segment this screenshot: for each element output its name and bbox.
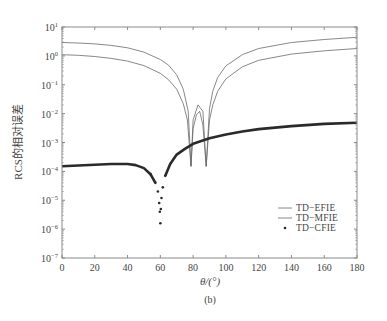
rcs-error-chart: 02040608010012014016018010110010−110−210… <box>0 0 387 321</box>
series-tdefie-line <box>62 37 357 166</box>
x-tick-label: 20 <box>90 262 100 273</box>
x-tick-label: 120 <box>251 262 266 273</box>
x-tick-label: 40 <box>123 262 133 273</box>
legend-label: TD−MFIE <box>296 213 338 223</box>
legend-label: TD−CFIE <box>296 223 336 233</box>
series-cfie-dot <box>158 202 161 205</box>
legend-dot-icon <box>284 227 287 230</box>
x-tick-label: 140 <box>284 262 299 273</box>
series-cfie-dot <box>161 186 164 189</box>
axes-layer: 02040608010012014016018010110010−110−210… <box>41 21 364 273</box>
y-tick-label: 10−3 <box>41 137 58 149</box>
y-tick-label: 10−7 <box>41 252 59 264</box>
y-axis-label: RCS的相对误差 <box>11 104 24 180</box>
y-tick-label: 10−4 <box>41 165 59 177</box>
legend: TD−EFIETD−MFIETD−CFIE <box>278 203 338 233</box>
series-cfie-dot <box>159 222 162 225</box>
series-cfie-curve <box>62 164 155 183</box>
y-tick-label: 100 <box>45 50 58 62</box>
figure-caption: (b) <box>204 294 216 306</box>
legend-label: TD−EFIE <box>296 203 335 213</box>
y-tick-label: 101 <box>45 21 58 33</box>
series-cfie-dot <box>149 173 152 176</box>
series-cfie-dot <box>154 182 157 185</box>
x-tick-label: 80 <box>188 262 198 273</box>
series-cfie-dot <box>160 208 163 211</box>
series-cfie-dot <box>164 175 167 178</box>
x-tick-label: 60 <box>155 262 165 273</box>
series-cfie-dot <box>160 197 163 200</box>
x-tick-label: 100 <box>218 262 233 273</box>
x-tick-label: 160 <box>317 262 332 273</box>
series-cfie-dot <box>159 210 162 213</box>
x-axis-label: θ/(°) <box>200 275 221 288</box>
x-tick-label: 0 <box>60 262 65 273</box>
x-tick-label: 180 <box>350 262 365 273</box>
y-tick-label: 10−1 <box>41 79 58 91</box>
y-tick-label: 10−6 <box>41 223 59 235</box>
series-cfie-dot <box>157 190 160 193</box>
series-cfie-curve <box>165 123 357 176</box>
series-layer <box>62 37 357 224</box>
y-tick-label: 10−2 <box>41 108 58 120</box>
y-tick-label: 10−5 <box>41 194 58 206</box>
